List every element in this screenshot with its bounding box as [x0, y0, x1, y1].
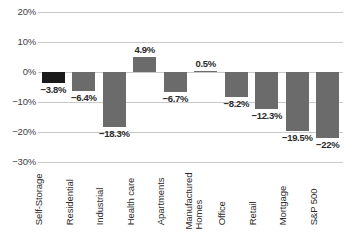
- y-axis-tick-label: 10%: [2, 36, 36, 47]
- bar-value-label: −6.4%: [71, 92, 97, 103]
- x-axis-category-text: S&P 500: [309, 167, 319, 226]
- bar[interactable]: [133, 57, 156, 72]
- x-axis-category-text: Office: [217, 167, 227, 226]
- bar-value-label: −6.7%: [162, 93, 188, 104]
- x-axis-category-label: S&P 500: [313, 163, 344, 233]
- bar-group[interactable]: 4.9%: [130, 12, 161, 162]
- y-axis-tick-label: −10%: [2, 96, 36, 107]
- bar-value-label: −8.2%: [223, 98, 249, 109]
- bar[interactable]: [72, 72, 95, 91]
- bar-group[interactable]: −12.3%: [252, 12, 283, 162]
- x-axis-category-text: Residential: [65, 167, 75, 226]
- y-axis-tick-label: −30%: [2, 156, 36, 167]
- bar-group[interactable]: −19.5%: [282, 12, 313, 162]
- bar-series: −3.8%−6.4%−18.3%4.9%−6.7%0.5%−8.2%−12.3%…: [38, 12, 343, 162]
- bar-value-label: 4.9%: [135, 44, 155, 55]
- bar[interactable]: [316, 72, 339, 138]
- bar-group[interactable]: −22%: [313, 12, 344, 162]
- y-axis-tick-label: 20%: [2, 6, 36, 17]
- x-axis-category-text: Health care: [126, 167, 136, 226]
- x-axis-category-labels: Self-StorageResidentialIndustrialHealth …: [38, 163, 343, 233]
- y-axis-tick-label: 0%: [2, 66, 36, 77]
- bar-group[interactable]: −6.4%: [69, 12, 100, 162]
- bar-value-label: −18.3%: [99, 128, 130, 139]
- bar-group[interactable]: −8.2%: [221, 12, 252, 162]
- bar-value-label: −3.8%: [40, 84, 66, 95]
- x-axis-category-text: Manufactured Homes: [184, 173, 204, 230]
- x-axis-category-text: Self-Storage: [34, 167, 44, 226]
- x-axis-category-text: Retail: [248, 167, 258, 226]
- bar-group[interactable]: 0.5%: [191, 12, 222, 162]
- bar-value-label: −22%: [316, 139, 339, 150]
- x-axis-category-text: Industrial: [95, 167, 105, 226]
- bar[interactable]: [103, 72, 126, 127]
- x-axis-category-text: Apartments: [156, 167, 166, 226]
- bar[interactable]: [255, 72, 278, 109]
- bar[interactable]: [194, 71, 217, 73]
- bar-group[interactable]: −6.7%: [160, 12, 191, 162]
- bar[interactable]: [164, 72, 187, 92]
- bar-value-label: 0.5%: [196, 58, 216, 69]
- bar[interactable]: [42, 72, 65, 83]
- x-axis-category-text: Mortgage: [278, 167, 288, 226]
- bar[interactable]: [225, 72, 248, 97]
- bar-value-label: −12.3%: [251, 110, 282, 121]
- bar-chart: 20%10%0%−10%−20%−30% −3.8%−6.4%−18.3%4.9…: [0, 0, 349, 233]
- bar[interactable]: [286, 72, 309, 131]
- y-axis-tick-label: −20%: [2, 126, 36, 137]
- bar-group[interactable]: −18.3%: [99, 12, 130, 162]
- bar-group[interactable]: −3.8%: [38, 12, 69, 162]
- bar-value-label: −19.5%: [282, 132, 313, 143]
